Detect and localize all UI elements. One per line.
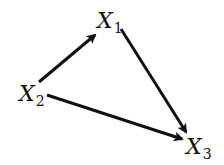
node-x1-base: X <box>97 8 113 33</box>
node-x1: X1 <box>97 10 123 32</box>
edge-x2-to-x3 <box>47 95 182 139</box>
node-x2-base: X <box>19 81 35 106</box>
diagram-canvas: X1 X2 X3 <box>0 0 224 165</box>
node-x3: X3 <box>186 136 212 158</box>
node-x2-subscript: 2 <box>36 93 45 109</box>
node-x1-subscript: 1 <box>114 20 123 36</box>
node-x3-subscript: 3 <box>203 146 212 162</box>
node-x2: X2 <box>19 83 45 105</box>
edge-x2-to-x1 <box>39 35 95 82</box>
edge-x1-to-x3 <box>121 29 186 132</box>
node-x3-base: X <box>186 134 202 159</box>
